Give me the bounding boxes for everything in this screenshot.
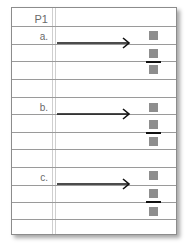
rule-line [12, 219, 176, 220]
problem-label-b: b. [18, 102, 48, 113]
arrow-icon [57, 37, 131, 49]
answer-box-numerator[interactable] [149, 49, 158, 58]
rule-line [12, 149, 176, 150]
fraction-bar [146, 201, 161, 203]
arrow-icon [57, 178, 131, 190]
fraction-bar [146, 61, 161, 63]
problem-label-a: a. [18, 31, 48, 42]
answer-box-whole[interactable] [149, 103, 158, 112]
answer-box-whole[interactable] [149, 171, 158, 180]
problem-label-c: c. [18, 172, 48, 183]
fraction-bar [146, 132, 161, 134]
answer-box-denominator[interactable] [149, 65, 158, 74]
rule-line [12, 97, 176, 98]
worksheet-paper: P1 a. b. c. [11, 7, 177, 235]
page-header: P1 [18, 13, 48, 25]
arrow-icon [57, 108, 131, 120]
answer-box-denominator[interactable] [149, 207, 158, 216]
answer-box-denominator[interactable] [149, 137, 158, 146]
rule-line [12, 79, 176, 80]
rule-line [12, 26, 176, 27]
answer-box-numerator[interactable] [149, 120, 158, 129]
rule-line [12, 167, 176, 168]
margin-line [55, 8, 56, 234]
answer-box-whole[interactable] [149, 31, 158, 40]
margin-line [52, 8, 53, 234]
answer-box-numerator[interactable] [149, 189, 158, 198]
